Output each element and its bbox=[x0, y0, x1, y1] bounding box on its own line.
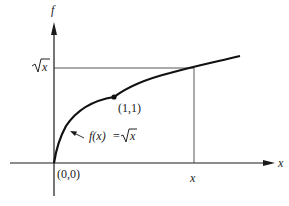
y-tick-radicand: x bbox=[41, 60, 48, 74]
curve-label-eq: = bbox=[113, 129, 120, 143]
y-tick-label-sqrt-x: x bbox=[32, 59, 50, 74]
curve-label-arrow-icon bbox=[70, 131, 77, 136]
x-axis-arrow-icon bbox=[263, 160, 275, 166]
y-axis-arrow-icon bbox=[51, 22, 57, 35]
curve-label-lhs: f(x) bbox=[89, 129, 106, 143]
curve-label: f(x) = x bbox=[89, 129, 137, 143]
x-axis-label: x bbox=[277, 156, 284, 170]
sqrt-curve bbox=[54, 56, 240, 163]
x-tick-label: x bbox=[189, 171, 196, 185]
plot-svg: f x x x (1,1) (0,0) f(x) = x bbox=[0, 0, 289, 206]
point-1-1 bbox=[111, 94, 116, 99]
origin-label: (0,0) bbox=[57, 167, 80, 181]
point-label: (1,1) bbox=[118, 101, 141, 115]
y-axis-label: f bbox=[51, 3, 56, 17]
curve-label-rhs: x bbox=[129, 129, 136, 143]
sqrt-function-diagram: f x x x (1,1) (0,0) f(x) = x bbox=[0, 0, 289, 206]
